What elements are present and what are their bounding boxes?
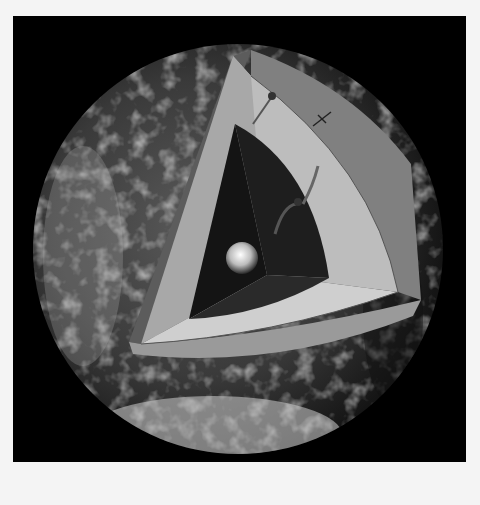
inner-core (226, 242, 258, 274)
earth-illustration (13, 16, 466, 462)
figure-caption (0, 0, 480, 14)
earth-cutaway-figure (13, 16, 466, 462)
